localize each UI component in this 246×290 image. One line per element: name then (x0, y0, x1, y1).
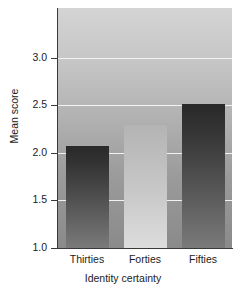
y-tick-mark (51, 248, 57, 249)
bar-forties (124, 125, 167, 248)
y-tick-mark (51, 105, 57, 106)
bar-thirties (66, 146, 109, 248)
bar-chart-figure: 1.01.52.02.53.0 ThirtiesFortiesFifties M… (0, 0, 246, 290)
y-axis-line (57, 8, 58, 249)
y-tick-mark (51, 153, 57, 154)
y-tick-label: 1.0 (32, 242, 47, 253)
gridline (58, 58, 232, 59)
x-tick-label: Thirties (58, 253, 116, 265)
plot-area (58, 8, 232, 248)
y-tick-label: 3.0 (32, 52, 47, 63)
y-tick-mark (51, 200, 57, 201)
x-tick-label: Forties (116, 253, 174, 265)
x-axis-title: Identity certainty (0, 272, 246, 284)
y-tick-mark (51, 58, 57, 59)
y-tick-label: 1.5 (32, 194, 47, 205)
y-tick-label: 2.0 (32, 147, 47, 158)
x-axis-line (57, 248, 233, 249)
y-tick-label: 2.5 (32, 99, 47, 110)
x-tick-label: Fifties (174, 253, 232, 265)
bar-fifties (182, 104, 225, 248)
y-axis-title: Mean score (8, 74, 20, 158)
